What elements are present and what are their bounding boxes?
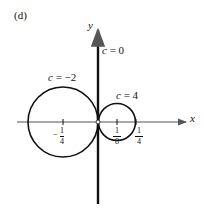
x-axis-label: x	[190, 113, 195, 124]
label-c4: c = 4	[116, 90, 138, 101]
tick-label-minus-quarter: − 14	[54, 127, 64, 146]
diagram-root: (d) y x c = 0 c = −2 c = 4 − 14 18 14	[0, 0, 204, 208]
y-axis-label: y	[88, 20, 93, 31]
label-c-minus-2: c = −2	[48, 72, 76, 83]
label-c0: c = 0	[102, 45, 124, 56]
tick-label-quarter: 14	[135, 127, 143, 146]
tick-label-eighth: 18	[113, 127, 121, 146]
origin-point	[96, 120, 100, 124]
level-curves-plot	[0, 0, 204, 208]
